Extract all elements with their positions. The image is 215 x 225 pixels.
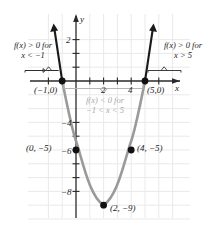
label-y-intercept: (0, −5) <box>26 143 52 153</box>
point-vertex <box>100 202 107 209</box>
label-vertex: (2, −9) <box>110 203 136 213</box>
curve-right-arrow <box>149 24 157 33</box>
y-tick-2: 2 <box>66 35 71 45</box>
curve-left-arrow <box>50 24 58 33</box>
annotation-negative-mid: f(x) < 0 for −1 < x < 5 <box>74 96 136 116</box>
y-axis-arrow <box>73 14 79 22</box>
annotation-negative-mid-line2: −1 < x < 5 <box>74 106 136 116</box>
label-mirror: (4, −5) <box>137 143 163 153</box>
point-mirror <box>128 147 135 154</box>
x-tick-2: 2 <box>101 85 106 95</box>
x-tick-4: 4 <box>128 85 133 95</box>
label-root-right: (5,0) <box>147 85 164 95</box>
point-y-intercept <box>73 147 80 154</box>
label-root-left: (−1,0) <box>34 85 57 95</box>
annotation-positive-right-line2: x > 5 <box>152 51 214 61</box>
x-axis-label: x <box>175 83 179 93</box>
y-tick-m6: −6 <box>61 146 72 156</box>
annotation-positive-left-line2: x < −1 <box>2 51 64 61</box>
point-root-left <box>59 78 66 85</box>
y-axis-label: y <box>80 14 84 24</box>
annotation-positive-left: f(x) > 0 for x < −1 <box>2 41 64 61</box>
annotation-positive-right: f(x) > 0 for x > 5 <box>152 41 214 61</box>
point-root-right <box>142 78 149 85</box>
y-tick-m4: −4 <box>61 118 72 128</box>
figure-canvas: y x 2 4 2 −4 −6 −8 (−1,0) (5,0) (0, −5) … <box>0 0 215 225</box>
y-tick-m8: −8 <box>61 187 72 197</box>
